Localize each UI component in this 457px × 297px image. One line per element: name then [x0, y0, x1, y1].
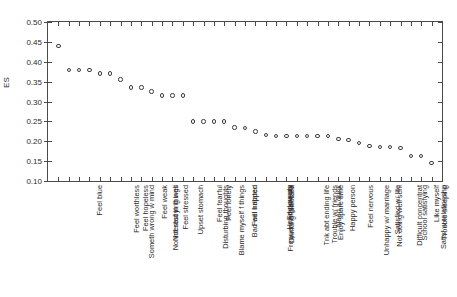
x-axis-tick-label: Upset stomach: [196, 185, 205, 234]
x-axis-tick-label: Satisfied w/ life: [393, 185, 402, 234]
data-point: [419, 154, 423, 158]
y-axis-tick-right: [438, 62, 442, 63]
x-axis-tick-top: [359, 22, 360, 26]
x-axis-tick-bottom: [141, 177, 142, 181]
data-point: [212, 119, 216, 123]
x-axis-tick-top: [390, 22, 391, 26]
x-axis-tick-label: Need a drink: [334, 185, 343, 227]
x-axis-tick-bottom: [121, 177, 122, 181]
x-axis-tick-top: [411, 22, 412, 26]
x-axis-tick-bottom: [255, 177, 256, 181]
x-axis-tick-label: Feel worthless: [132, 185, 141, 233]
x-axis-tick-bottom: [100, 177, 101, 181]
y-axis-tick-label: 0.35: [26, 77, 42, 86]
y-axis-tick-inner: [48, 42, 52, 43]
data-point: [409, 154, 413, 158]
y-axis-tick-right: [438, 181, 442, 182]
x-axis-tick-bottom: [183, 177, 184, 181]
x-axis-tick-top: [286, 22, 287, 26]
y-axis-tick-inner: [48, 102, 52, 103]
x-axis-tick-label: Feel lonely: [224, 185, 233, 221]
x-axis-tick-top: [255, 22, 256, 26]
y-axis-tick-label: 0.25: [26, 117, 42, 126]
data-point: [170, 93, 174, 97]
y-axis-tick-label: 0.40: [26, 57, 42, 66]
x-axis-tick-bottom: [235, 177, 236, 181]
data-point: [87, 68, 91, 72]
x-axis-tick-top: [421, 22, 422, 26]
y-axis-tick-inner: [48, 22, 52, 23]
scatter-chart-figure: ES 0.100.150.200.250.300.350.400.450.50 …: [0, 0, 457, 297]
y-axis-tick-inner: [48, 62, 52, 63]
data-point: [429, 161, 433, 165]
data-point: [398, 146, 402, 150]
data-point: [139, 85, 143, 89]
x-axis-tick-top: [58, 22, 59, 26]
x-axis-tick-label: Unhappy w/ marriage: [383, 185, 392, 255]
x-axis-tick-top: [224, 22, 225, 26]
x-axis-tick-top: [245, 22, 246, 26]
x-axis-tick-bottom: [328, 177, 329, 181]
x-axis-tick-bottom: [69, 177, 70, 181]
x-axis-tick-top: [162, 22, 163, 26]
y-axis-tick-inner: [48, 181, 52, 182]
x-axis-tick-bottom: [411, 177, 412, 181]
data-point: [295, 134, 299, 138]
y-axis-tick-right: [438, 82, 442, 83]
data-point: [264, 133, 268, 137]
x-axis-tick-top: [297, 22, 298, 26]
x-axis-tick-top: [266, 22, 267, 26]
x-axis-tick-top: [110, 22, 111, 26]
data-point: [160, 93, 164, 97]
y-axis-tick-right: [438, 22, 442, 23]
x-axis-tick-top: [204, 22, 205, 26]
data-point: [253, 129, 257, 133]
x-axis-tick-top: [79, 22, 80, 26]
x-axis-tick-bottom: [131, 177, 132, 181]
x-axis-tick-bottom: [276, 177, 277, 181]
x-axis-tick-top: [380, 22, 381, 26]
data-point: [129, 85, 133, 89]
x-axis-tick-top: [328, 22, 329, 26]
data-point: [118, 77, 122, 81]
x-axis-tick-label: Feel angry: [285, 185, 294, 220]
x-axis-tick-top: [349, 22, 350, 26]
x-axis-tick-label: Feel hopeless: [141, 185, 150, 231]
x-axis-tick-bottom: [110, 177, 111, 181]
data-point: [149, 89, 153, 93]
x-axis-tick-label: School satisfying: [420, 185, 429, 240]
data-point: [388, 145, 392, 149]
y-axis-tick-right: [438, 42, 442, 43]
data-point: [222, 119, 226, 123]
x-axis-tick-label: Happy person: [348, 185, 357, 231]
x-axis-tick-bottom: [152, 177, 153, 181]
data-point: [98, 71, 102, 75]
y-axis-tick-inner: [48, 141, 52, 142]
y-axis-tick-label: 0.20: [26, 137, 42, 146]
x-axis-tick-bottom: [89, 177, 90, 181]
x-axis-tick-label: Feel fearful: [215, 185, 224, 222]
y-axis-tick-right: [438, 121, 442, 122]
x-axis-tick-top: [152, 22, 153, 26]
x-axis-tick-top: [276, 22, 277, 26]
data-point: [378, 145, 382, 149]
x-axis-tick-top: [318, 22, 319, 26]
data-point: [357, 141, 361, 145]
y-axis-tick-right: [438, 141, 442, 142]
x-axis-tick-top: [235, 22, 236, 26]
x-axis-tick-top: [121, 22, 122, 26]
x-axis-tick-label: Feel blue: [94, 185, 103, 215]
x-axis-tick-bottom: [390, 177, 391, 181]
x-axis-tick-label: Feel nervous: [366, 185, 375, 228]
data-point: [284, 134, 288, 138]
data-point: [201, 119, 205, 123]
x-axis-tick-top: [338, 22, 339, 26]
x-axis-tick-bottom: [307, 177, 308, 181]
x-axis-tick-top: [183, 22, 184, 26]
y-axis-label: ES: [2, 77, 11, 88]
x-axis-tick-top: [172, 22, 173, 26]
x-axis-tick-top: [89, 22, 90, 26]
y-axis-tick-right: [438, 102, 442, 103]
x-axis-tick-bottom: [432, 177, 433, 181]
y-axis-tick-inner: [48, 121, 52, 122]
